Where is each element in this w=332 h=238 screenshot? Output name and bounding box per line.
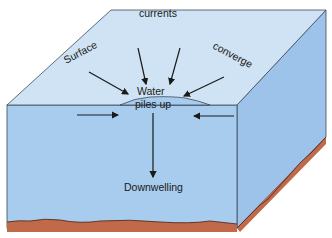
label-piles-up: piles up [135, 98, 171, 110]
label-downwelling: Downwelling [124, 181, 183, 193]
label-water: Water [137, 85, 165, 97]
label-currents: currents [139, 7, 177, 19]
block-front-face [7, 105, 237, 228]
downwelling-diagram: Surface currents converge Water piles up… [0, 0, 332, 238]
